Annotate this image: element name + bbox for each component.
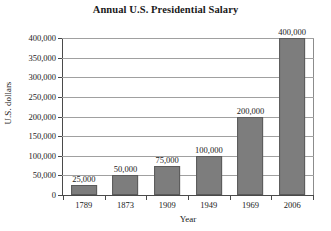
x-axis-tick-label: 2006 bbox=[271, 199, 313, 211]
y-axis-tick-label: 200,000 bbox=[28, 112, 56, 121]
bar-slot: 75,000 bbox=[146, 38, 188, 195]
y-axis-tick bbox=[58, 156, 62, 157]
bar[interactable] bbox=[113, 175, 139, 195]
plot-area: 050,000100,000150,000200,000250,000300,0… bbox=[62, 38, 314, 196]
bar-value-label: 200,000 bbox=[237, 106, 265, 116]
bar-value-label: 400,000 bbox=[278, 27, 306, 37]
x-axis-tick-label: 1873 bbox=[105, 199, 147, 211]
bar-slot: 400,000 bbox=[271, 38, 313, 195]
x-axis-tick-label: 1969 bbox=[230, 199, 272, 211]
bar-value-label: 25,000 bbox=[72, 174, 95, 184]
y-axis-tick bbox=[58, 195, 62, 196]
y-axis-tick bbox=[58, 38, 62, 39]
y-axis-tick-label: 150,000 bbox=[28, 132, 56, 141]
y-axis-tick bbox=[58, 58, 62, 59]
bar-slot: 100,000 bbox=[188, 38, 230, 195]
chart-title: Annual U.S. Presidential Salary bbox=[0, 4, 331, 16]
y-axis-tick-label: 400,000 bbox=[28, 34, 56, 43]
bar[interactable] bbox=[154, 166, 180, 195]
bar-value-label: 50,000 bbox=[114, 164, 137, 174]
y-axis-tick-label: 300,000 bbox=[28, 73, 56, 82]
bar[interactable] bbox=[279, 38, 305, 195]
x-axis-tick-label: 1789 bbox=[63, 199, 105, 211]
x-axis-tick-label: 1949 bbox=[188, 199, 230, 211]
bar-value-label: 75,000 bbox=[155, 155, 178, 165]
bar-slot: 200,000 bbox=[230, 38, 272, 195]
y-axis-tick-label: 350,000 bbox=[28, 53, 56, 62]
y-axis-tick bbox=[58, 117, 62, 118]
y-axis-title: U.S. dollars bbox=[2, 28, 14, 178]
y-axis-tick bbox=[58, 175, 62, 176]
bar-slot: 50,000 bbox=[105, 38, 147, 195]
y-axis-tick-label: 0 bbox=[52, 191, 56, 200]
bar[interactable] bbox=[196, 156, 222, 195]
bar-series: 25,00050,00075,000100,000200,000400,000 bbox=[63, 38, 313, 195]
y-axis-tick-label: 50,000 bbox=[33, 171, 56, 180]
x-axis-title: Year bbox=[62, 213, 314, 225]
x-axis-tick-labels: 178918731909194919692006 bbox=[63, 199, 313, 213]
y-axis-tick-label: 100,000 bbox=[28, 151, 56, 160]
y-axis-tick-label: 250,000 bbox=[28, 92, 56, 101]
y-axis-tick bbox=[58, 136, 62, 137]
y-axis-tick bbox=[58, 97, 62, 98]
bar-chart: Annual U.S. Presidential Salary U.S. dol… bbox=[0, 0, 331, 231]
y-axis-tick bbox=[58, 77, 62, 78]
x-axis-tick-label: 1909 bbox=[146, 199, 188, 211]
x-axis-tick bbox=[313, 196, 314, 200]
bar-slot: 25,000 bbox=[63, 38, 105, 195]
bar[interactable] bbox=[71, 185, 97, 195]
bar[interactable] bbox=[238, 117, 264, 196]
bar-value-label: 100,000 bbox=[195, 145, 223, 155]
